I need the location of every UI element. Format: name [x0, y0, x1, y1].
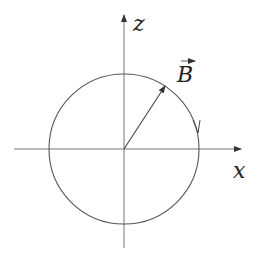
magnetic-field-diagram: z x B — [0, 0, 259, 257]
x-axis-label: x — [233, 158, 246, 183]
b-vector — [124, 86, 165, 149]
b-vector-label: B — [176, 62, 193, 87]
z-axis-label: z — [132, 11, 145, 36]
